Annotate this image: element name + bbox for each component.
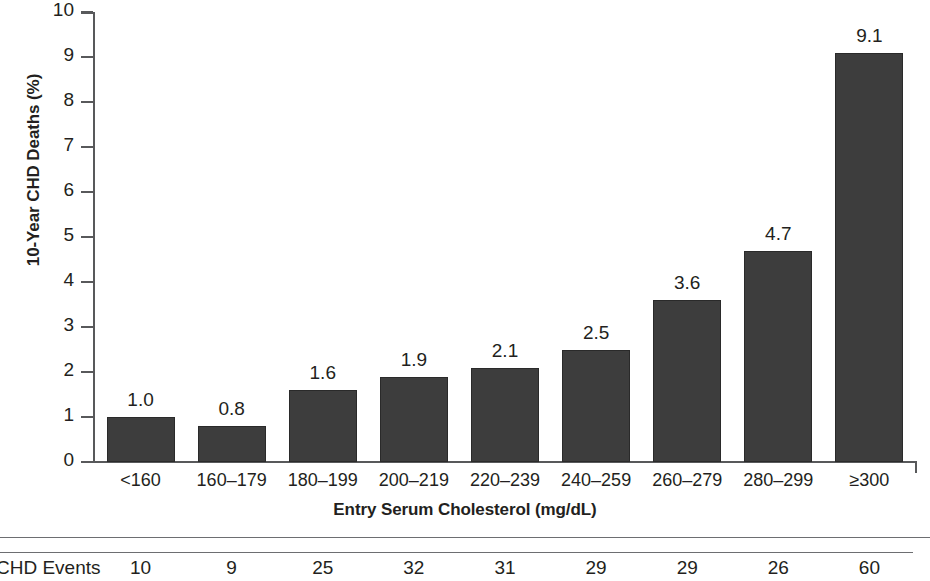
y-axis-tick xyxy=(81,236,93,238)
bar-value-label: 2.1 xyxy=(460,340,550,362)
table-header-rule xyxy=(0,552,913,553)
y-axis-tick xyxy=(81,146,93,148)
y-axis-tick-label: 0 xyxy=(14,449,74,471)
bar-value-label: 4.7 xyxy=(733,223,823,245)
y-axis-title: 10-Year CHD Deaths (%) xyxy=(24,40,44,300)
bar-value-label: 0.8 xyxy=(187,398,277,420)
y-axis-tick-label: 2 xyxy=(14,359,74,381)
y-axis-tick xyxy=(81,56,93,58)
y-axis-tick-label: 3 xyxy=(14,314,74,336)
y-axis-tick-label: 1 xyxy=(14,404,74,426)
bar-value-label: 1.9 xyxy=(369,349,459,371)
bar-value-label: 2.5 xyxy=(551,322,641,344)
y-axis-tick xyxy=(81,326,93,328)
y-axis-tick xyxy=(81,191,93,193)
y-axis-tick xyxy=(81,371,93,373)
bar xyxy=(289,390,357,462)
bar xyxy=(562,350,630,463)
y-axis-tick-label: 4 xyxy=(14,269,74,291)
y-axis-tick-label: 7 xyxy=(14,134,74,156)
y-axis-tick xyxy=(81,416,93,418)
bar-value-label: 9.1 xyxy=(824,25,914,47)
bar-value-label: 1.6 xyxy=(278,362,368,384)
bar xyxy=(107,417,175,462)
chd-events-value: 60 xyxy=(814,557,924,579)
y-axis-tick-label: 5 xyxy=(14,224,74,246)
y-axis-tick-label: 10 xyxy=(14,0,74,21)
bar xyxy=(380,377,448,463)
bar-value-label: 3.6 xyxy=(642,272,732,294)
x-axis-title: Entry Serum Cholesterol (mg/dL) xyxy=(0,500,930,520)
x-axis-tick-label: ≥300 xyxy=(814,470,924,491)
y-axis-tick xyxy=(81,101,93,103)
bar xyxy=(744,251,812,463)
y-axis-tick xyxy=(81,281,93,283)
y-axis-tick-label: 6 xyxy=(14,179,74,201)
y-axis-tick xyxy=(81,461,93,463)
y-axis-tick-label: 8 xyxy=(14,89,74,111)
bar-chart-figure: 10-Year CHD Deaths (%) 109876543210 1.00… xyxy=(0,0,930,581)
bar xyxy=(198,426,266,462)
bar xyxy=(471,368,539,463)
bar xyxy=(835,53,903,463)
table-top-rule xyxy=(0,537,930,538)
y-axis-tick-label: 9 xyxy=(14,44,74,66)
bar-value-label: 1.0 xyxy=(96,389,186,411)
bar xyxy=(653,300,721,462)
y-axis-tick xyxy=(81,11,93,13)
